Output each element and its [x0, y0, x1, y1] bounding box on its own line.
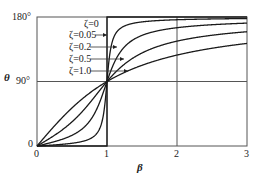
x-tick-1: 1	[104, 149, 109, 159]
phase-chart	[0, 0, 262, 178]
y-tick-180: 180°	[12, 12, 31, 22]
legend-zeta-05: ζ=0.5	[69, 54, 91, 64]
x-tick-3: 3	[244, 149, 249, 159]
legend-zeta-0: ζ=0	[84, 19, 99, 29]
legend-zeta-005: ζ=0.05	[69, 30, 96, 40]
x-tick-2: 2	[174, 149, 179, 159]
y-axis-title: θ	[4, 72, 10, 83]
legend-zeta-10: ζ=1.0	[69, 66, 91, 76]
arrow-icon	[120, 57, 124, 61]
x-tick-0: 0	[34, 149, 39, 159]
y-tick-90: 90°	[16, 76, 30, 86]
y-tick-0: 0	[28, 139, 33, 149]
legend-zeta-02: ζ=0.2	[69, 42, 91, 52]
arrow-icon	[113, 45, 117, 49]
x-axis-title: β	[137, 162, 143, 173]
